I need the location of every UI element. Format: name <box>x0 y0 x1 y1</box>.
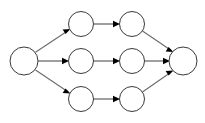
node-middle-2[interactable] <box>120 49 145 74</box>
diagram-canvas <box>0 0 205 123</box>
node-bottom-1[interactable] <box>69 87 94 112</box>
edge-mid1-to-mid2[interactable] <box>94 58 121 65</box>
edge-layer <box>36 21 174 103</box>
node-bottom-2[interactable] <box>120 87 145 112</box>
arrow-head-icon <box>62 58 69 65</box>
node-circle <box>10 47 38 75</box>
node-sink[interactable] <box>169 47 197 75</box>
edge-bot1-to-bot2[interactable] <box>94 96 121 103</box>
edge-source-to-top1[interactable] <box>36 29 71 52</box>
node-circle <box>69 49 94 74</box>
directed-graph <box>0 0 205 123</box>
edge-bot2-to-sink[interactable] <box>143 71 174 93</box>
node-circle <box>120 87 145 112</box>
arrow-head-icon <box>113 58 120 65</box>
arrow-head-icon <box>113 96 120 103</box>
edge-line <box>36 70 68 92</box>
edge-source-to-mid1[interactable] <box>38 58 69 65</box>
node-top-2[interactable] <box>120 12 145 37</box>
edge-mid2-to-sink[interactable] <box>145 58 171 65</box>
node-circle <box>69 87 94 112</box>
node-circle <box>69 12 94 37</box>
node-top-1[interactable] <box>69 12 94 37</box>
edge-top1-to-top2[interactable] <box>94 21 121 28</box>
node-circle <box>120 49 145 74</box>
edge-line <box>143 31 171 50</box>
edge-line <box>143 73 171 93</box>
edge-source-to-bot1[interactable] <box>36 70 71 94</box>
arrow-head-icon <box>113 21 120 28</box>
edge-line <box>36 31 68 52</box>
node-middle-1[interactable] <box>69 49 94 74</box>
node-circle <box>120 12 145 37</box>
node-circle <box>169 47 197 75</box>
edge-top2-to-sink[interactable] <box>143 31 174 52</box>
node-source[interactable] <box>10 47 38 75</box>
